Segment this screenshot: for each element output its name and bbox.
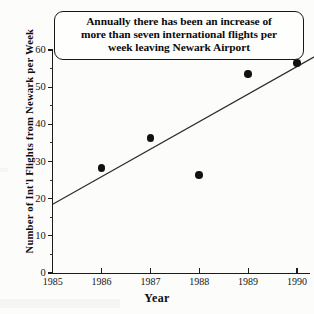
data-point-1990 — [293, 59, 301, 67]
annotation-line-3: week leaving Newark Airport — [59, 41, 299, 54]
data-point-1987 — [147, 134, 155, 142]
chart-annotation-box: Annually there has been an increase of m… — [54, 11, 304, 60]
annotation-line-1: Annually there has been an increase of — [59, 15, 299, 28]
annotation-line-2: more than seven international flights pe… — [59, 28, 299, 41]
data-point-1988 — [195, 171, 203, 179]
data-point-1986 — [98, 164, 106, 172]
chart-figure: Annually there has been an increase of m… — [0, 0, 314, 314]
data-point-1989 — [244, 70, 252, 78]
